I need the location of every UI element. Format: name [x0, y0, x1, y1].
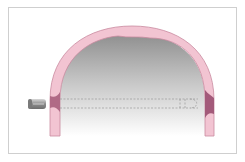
bullet-icon: [28, 99, 46, 109]
skull-diagram: [0, 0, 245, 162]
